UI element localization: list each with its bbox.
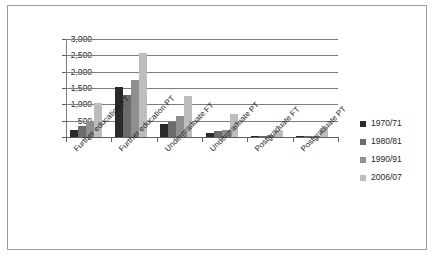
x-tick-mark <box>157 137 158 142</box>
legend-item: 2006/07 <box>360 170 430 185</box>
legend-item: 1980/81 <box>360 134 430 149</box>
y-axis-line <box>66 39 67 137</box>
x-tick-mark <box>66 137 67 142</box>
x-tick-mark <box>293 137 294 142</box>
chart-legend: 1970/711980/811990/912006/07 <box>360 116 430 188</box>
legend-swatch-icon <box>360 121 366 127</box>
bar <box>70 130 78 137</box>
legend-label: 1990/91 <box>371 155 402 164</box>
x-tick-mark <box>202 137 203 142</box>
legend-item: 1990/91 <box>360 152 430 167</box>
chart-figure: 05001,0001,5002,0002,5003,000 Further ed… <box>0 0 437 267</box>
legend-swatch-icon <box>360 175 366 181</box>
legend-label: 1980/81 <box>371 137 402 146</box>
legend-swatch-icon <box>360 157 366 163</box>
bar <box>160 124 168 137</box>
x-tick-mark <box>338 137 339 142</box>
bar <box>296 136 304 137</box>
legend-item: 1970/71 <box>360 116 430 131</box>
legend-label: 1970/71 <box>371 119 402 128</box>
x-tick-mark <box>247 137 248 142</box>
chart-frame: 05001,0001,5002,0002,5003,000 Further ed… <box>7 5 427 250</box>
x-tick-mark <box>111 137 112 142</box>
bar <box>251 136 259 137</box>
legend-swatch-icon <box>360 139 366 145</box>
bar <box>206 133 214 137</box>
legend-label: 2006/07 <box>371 173 402 182</box>
